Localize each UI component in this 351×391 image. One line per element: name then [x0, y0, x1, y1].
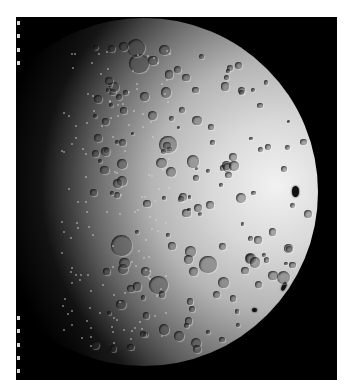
crater-rim-highlight: [156, 295, 158, 297]
crater-rim-highlight: [165, 275, 167, 277]
crater-rim-highlight: [77, 227, 79, 229]
crater-rim-highlight: [117, 104, 119, 106]
crater-rim-highlight: [113, 342, 115, 344]
crater-rim-highlight: [112, 331, 114, 333]
crater: [241, 222, 244, 225]
crater-rim-highlight: [131, 261, 133, 263]
crater: [251, 88, 255, 92]
crater-rim-highlight: [152, 136, 154, 138]
crater: [179, 107, 185, 113]
crater: [120, 107, 127, 114]
crater-rim-highlight: [167, 101, 169, 103]
crater: [105, 77, 113, 85]
crater-rim-highlight: [71, 143, 73, 145]
crater: [159, 324, 170, 335]
crater-rim-highlight: [86, 320, 88, 322]
crater-rim-highlight: [64, 298, 66, 300]
crater-rim-highlight: [91, 62, 93, 64]
tick-mark: [17, 369, 20, 373]
crater-rim-highlight: [106, 211, 108, 213]
crater: [229, 153, 237, 161]
tick-mark: [17, 61, 20, 65]
crater-rim-highlight: [80, 274, 82, 276]
dark-spot-large: [292, 186, 299, 197]
crater-rim-highlight: [61, 252, 63, 254]
crater: [189, 267, 198, 276]
crater-rim-highlight: [102, 284, 104, 286]
crater-rim-highlight: [135, 265, 137, 267]
crater-rim-highlight: [76, 222, 78, 224]
crater: [127, 344, 134, 351]
crater-rim-highlight: [79, 279, 81, 281]
crater: [264, 257, 269, 262]
crater-rim-highlight: [120, 194, 122, 196]
crater-rim-highlight: [151, 228, 153, 230]
crater-rim-highlight: [161, 335, 163, 337]
crater: [103, 268, 110, 275]
crater-rim-highlight: [164, 93, 166, 95]
crater-rim-highlight: [138, 250, 140, 252]
tick-mark: [17, 316, 20, 320]
crater-rim-highlight: [123, 329, 125, 331]
crater-rim-highlight: [124, 150, 126, 152]
crater: [127, 39, 145, 57]
crater-rim-highlight: [98, 53, 100, 55]
crater: [219, 183, 223, 187]
crater: [156, 158, 166, 168]
crater: [193, 175, 199, 181]
crater: [206, 330, 210, 334]
crater-rim-highlight: [85, 153, 87, 155]
crater: [235, 62, 242, 69]
crater: [236, 193, 246, 203]
crater: [284, 262, 287, 265]
crater-rim-highlight: [71, 310, 73, 312]
crater: [179, 193, 187, 201]
crater-rim-highlight: [90, 345, 92, 347]
crater: [184, 323, 188, 327]
crater-rim-highlight: [128, 124, 130, 126]
crater-rim-highlight: [119, 213, 121, 215]
crater-rim-highlight: [143, 257, 145, 259]
crater-rim-highlight: [112, 136, 114, 138]
crater: [174, 331, 183, 340]
crater-rim-highlight: [88, 226, 90, 228]
crater: [133, 282, 142, 291]
crater: [110, 345, 117, 352]
crater: [114, 192, 120, 198]
crater-rim-highlight: [74, 53, 76, 55]
crater: [239, 90, 244, 95]
crater: [102, 118, 109, 125]
crater-rim-highlight: [85, 201, 87, 203]
crater: [219, 337, 224, 342]
crater: [113, 179, 122, 188]
crater: [304, 210, 312, 218]
crater: [161, 87, 171, 97]
tick-mark: [17, 356, 20, 360]
crater-rim-highlight: [161, 153, 163, 155]
crater: [198, 212, 202, 216]
crater: [174, 66, 181, 73]
crater: [213, 291, 220, 298]
crater-rim-highlight: [157, 62, 159, 64]
crater: [119, 258, 130, 269]
crater: [188, 195, 192, 199]
crater: [206, 169, 210, 173]
crater: [265, 144, 271, 150]
crater-rim-highlight: [142, 126, 144, 128]
crater-rim-highlight: [81, 337, 83, 339]
crater: [93, 114, 97, 118]
tick-mark: [17, 48, 20, 52]
crater-rim-highlight: [63, 112, 65, 114]
crater: [143, 200, 151, 208]
crater: [90, 189, 97, 196]
crater-rim-highlight: [109, 101, 111, 103]
crater-rim-highlight: [141, 328, 143, 330]
crater-rim-highlight: [82, 148, 84, 150]
tick-mark: [17, 329, 20, 333]
crater: [108, 45, 115, 52]
crater-rim-highlight: [92, 95, 94, 97]
tick-mark: [17, 343, 20, 347]
crater: [268, 271, 278, 281]
crater-rim-highlight: [68, 188, 70, 190]
crater: [194, 204, 202, 212]
